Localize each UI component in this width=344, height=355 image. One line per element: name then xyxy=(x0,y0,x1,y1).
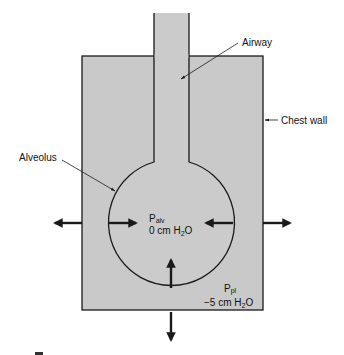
alveolus-label: Alveolus xyxy=(19,152,57,163)
chest-wall-label: Chest wall xyxy=(281,115,327,126)
p-pl-value: −5 cm H2O xyxy=(204,297,253,309)
airway-opening xyxy=(155,54,189,58)
alveolus-pressure-diagram: Airway Chest wall Alveolus Palv 0 cm H2O… xyxy=(0,0,344,355)
p-alv-value: 0 cm H2O xyxy=(149,225,193,237)
airway-label: Airway xyxy=(242,37,272,48)
